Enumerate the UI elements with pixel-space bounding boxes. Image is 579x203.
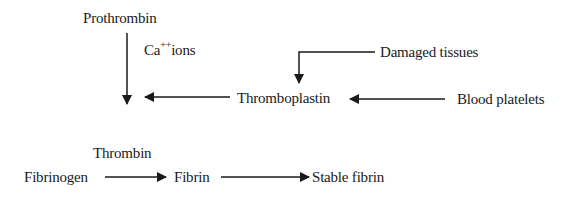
- label-thromboplastin: Thromboplastin: [237, 90, 330, 107]
- label-prothrombin: Prothrombin: [83, 10, 157, 27]
- label-blood-platelets: Blood platelets: [457, 91, 544, 108]
- label-fibrinogen: Fibrinogen: [24, 169, 88, 186]
- label-thrombin: Thrombin: [93, 145, 151, 162]
- arrow-damaged-tissues: [299, 52, 375, 83]
- label-stable-fibrin: Stable fibrin: [312, 169, 384, 186]
- label-ca-ions: Ca++ions: [144, 42, 195, 59]
- label-damaged-tissues: Damaged tissues: [380, 44, 478, 61]
- label-fibrin: Fibrin: [174, 169, 209, 186]
